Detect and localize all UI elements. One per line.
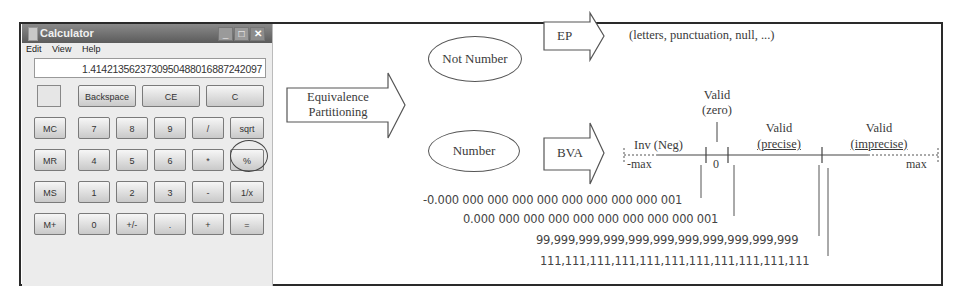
zone-valid-imprecise-line1: Valid bbox=[838, 120, 920, 136]
root-arrow-line1: Equivalence bbox=[292, 90, 384, 105]
number-ellipse: Number bbox=[428, 130, 520, 172]
zone-valid-zero: Valid (zero) bbox=[697, 88, 737, 118]
min-label: -max bbox=[627, 157, 652, 172]
boundary-value-precise-max: 99,999,999,999,999,999,999,999,999,999,9… bbox=[536, 233, 798, 247]
zone-valid-precise-line2: (precise) bbox=[742, 136, 816, 152]
zone-valid-imprecise: Valid (imprecise) bbox=[838, 120, 920, 152]
bva-arrow-label: BVA bbox=[557, 145, 583, 161]
not-number-ellipse: Not Number bbox=[428, 36, 522, 82]
zone-valid-imprecise-line2: (imprecise) bbox=[838, 136, 920, 152]
boundary-value-imprecise: 111,111,111,111,111,111,111,111,111,111,… bbox=[540, 254, 809, 268]
not-number-examples: (letters, punctuation, null, ...) bbox=[629, 28, 774, 43]
max-label: max bbox=[906, 157, 927, 172]
ep-arrow-label: EP bbox=[557, 28, 572, 44]
zero-label: 0 bbox=[713, 157, 719, 172]
zone-valid-zero-line1: Valid bbox=[697, 88, 737, 103]
boundary-value-neg-min: -0.000 000 000 000 000 000 000 000 000 0… bbox=[423, 193, 682, 207]
zone-valid-zero-line2: (zero) bbox=[697, 103, 737, 118]
zone-invalid-negative: Inv (Neg) bbox=[634, 138, 683, 153]
zone-valid-precise-line1: Valid bbox=[742, 120, 816, 136]
boundary-value-pos-min: 0.000 000 000 000 000 000 000 000 000 00… bbox=[463, 212, 718, 226]
ep-arrow-shape bbox=[544, 13, 604, 60]
zone-valid-precise: Valid (precise) bbox=[742, 120, 816, 152]
root-arrow-line2: Partitioning bbox=[292, 105, 384, 120]
ep-root-arrow: Equivalence Partitioning bbox=[292, 90, 384, 120]
